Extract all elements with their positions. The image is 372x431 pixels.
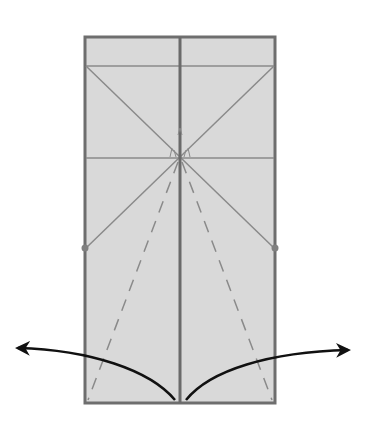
origami-diagram <box>0 0 372 431</box>
reference-point-left <box>82 245 89 252</box>
reference-point-right <box>272 245 279 252</box>
